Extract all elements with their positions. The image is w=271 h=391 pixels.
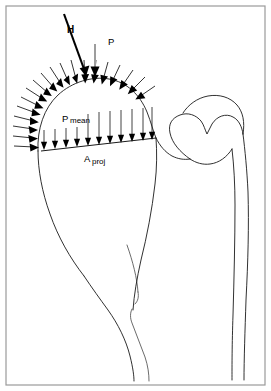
label-mean-pressure-sub: mean — [70, 116, 90, 125]
label-projected-area-main: A — [84, 153, 91, 164]
figure-container: H P P mean A proj — [0, 0, 271, 391]
label-pressure-p: P — [108, 36, 114, 47]
figure-border — [6, 6, 265, 385]
label-mean-pressure-main: P — [62, 113, 68, 124]
femoral-head-pressure-diagram: H P P mean A proj — [0, 0, 271, 391]
label-resultant-force-h: H — [67, 24, 74, 35]
label-projected-area-sub: proj — [92, 157, 106, 166]
